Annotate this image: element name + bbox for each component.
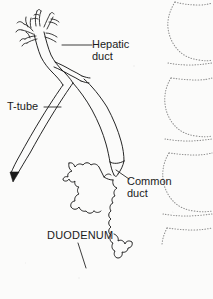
label-common-duct: Common duct: [127, 176, 172, 199]
figure-canvas: Hepatic duct T-tube Common duct DUODENUM: [0, 0, 213, 299]
label-duodenum: DUODENUM: [47, 230, 113, 242]
t-tube-arrow: [10, 172, 19, 182]
duodenum: [63, 163, 132, 258]
vertebral-bodies: [162, 2, 212, 246]
t-tube: [11, 62, 90, 173]
hepatic-duct: [34, 32, 73, 85]
common-duct: [73, 79, 124, 176]
intrahepatic-biliary-radicles: [16, 10, 59, 47]
duodenum-leader: [78, 243, 86, 268]
label-hepatic-duct: Hepatic duct: [92, 39, 129, 62]
label-t-tube: T-tube: [7, 101, 38, 113]
